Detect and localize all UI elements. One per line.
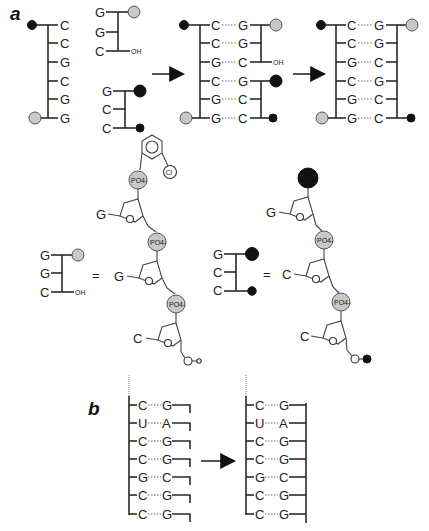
base-label: G [162,488,172,503]
base-label: G [279,488,289,503]
base-label: C [162,470,171,485]
base-label: G [162,507,172,522]
base-label: C [374,92,383,107]
panel-b-after: C U C C G C C G A G G C G G [246,375,306,523]
base-label: C [213,283,222,298]
ligated-duplex: C C G C G G G G C G C C [316,18,418,126]
hybrid-duplex: OH C C G C G G G G C G C C [180,18,284,126]
base-label: A [162,416,171,431]
base-label: G [162,434,172,449]
base-label: C [211,18,220,33]
base-label: C [238,92,247,107]
base-label: G [255,470,265,485]
base-label: C [347,36,356,51]
base-label: G [211,92,221,107]
base-label: U [255,416,264,431]
dotted-pairs [148,405,161,514]
base-label: C [138,488,147,503]
equals-sign: = [263,267,271,282]
base-label: G [238,36,248,51]
base-label: G [162,452,172,467]
base-label: C [102,121,111,136]
dotted-pairs [222,25,236,118]
base-label: C [138,434,147,449]
linker-circle [351,355,359,363]
probe-1: G G C OH [95,5,142,59]
oh-label: OH [273,59,284,66]
base-label: C [374,55,383,70]
base-label: G [279,507,289,522]
base-label: C [138,398,147,413]
nicked-ends [172,405,190,522]
panel-b-label: b [88,398,100,419]
base-label: C [300,329,309,344]
base-label: C [347,74,356,89]
base-label: G [347,92,357,107]
phosphate-label: PO4- [150,239,167,246]
phosphate-label: PO4- [131,177,148,184]
base-label: C [347,18,356,33]
panel-a-label: a [10,3,21,24]
five-prime-black-dot [28,21,37,30]
base-label: C [238,111,247,126]
base-label: G [238,18,248,33]
benzene-ring-icon [142,135,162,159]
base-label: C [255,434,264,449]
base-label: C [133,331,142,346]
base-label: C [255,452,264,467]
linker-circle [184,357,192,365]
base-label: C [95,44,104,59]
base-label: G [347,111,357,126]
chloro-label: Cl [166,169,173,176]
legend-probe-2: G C C = G PO4- C PO4- [213,168,371,363]
base-label: C [40,285,49,300]
base-label: C [138,452,147,467]
grey-circle [128,6,140,18]
base-label: C [211,36,220,51]
panel-b-before: C U C C G C C G A G G C G G [129,375,190,522]
base-label: G [96,207,106,222]
base-label: C [211,74,220,89]
base-label: G [374,74,384,89]
base-label: G [374,18,384,33]
base-label: G [60,92,70,107]
base-label: G [279,434,289,449]
base-label: G [95,5,105,20]
figure-canvas: a b C C G C G G G G C OH G C C [0,0,429,531]
base-label: G [279,398,289,413]
base-label: G [60,55,70,70]
phosphate-label: PO4- [317,237,334,244]
base-label: G [347,55,357,70]
base-label: G [40,266,50,281]
black-circle-large [298,168,318,188]
base-label: C [282,267,291,282]
base-label: C [60,36,69,51]
base-label: G [266,205,276,220]
base-label: G [162,398,172,413]
base-label: G [60,111,70,126]
base-label: G [102,84,112,99]
base-label: G [40,248,50,263]
base-label: G [211,55,221,70]
base-label: G [211,111,221,126]
base-label: C [60,18,69,33]
base-label: C [255,507,264,522]
base-label: G [138,470,148,485]
base-label: G [95,25,105,40]
base-label: G [279,452,289,467]
base-label: A [279,416,288,431]
base-label: U [138,416,147,431]
base-label: C [213,265,222,280]
phosphate-label: PO4- [169,301,186,308]
three-prime-grey-circle [29,112,41,124]
probe-2: G C C [102,84,146,136]
base-label: C [238,55,247,70]
black-circle [134,85,146,97]
base-label: G [374,36,384,51]
base-label: C [138,507,147,522]
linker-black-dot [363,355,371,363]
template-strand: C C G C G G [28,18,71,126]
base-label: C [255,488,264,503]
linker-end-circle [197,359,201,363]
base-label: C [60,74,69,89]
